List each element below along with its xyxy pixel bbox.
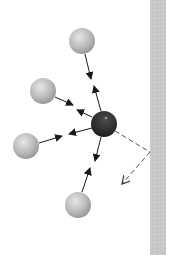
particle-upper-left: [30, 78, 56, 104]
arrow-bottom-pair: [82, 137, 101, 192]
particle-top: [69, 28, 95, 54]
wall-reflection-path: [115, 131, 150, 184]
particle-central-highlight: [105, 117, 108, 120]
arrow-upper-left-pair: [55, 97, 92, 117]
particle-bottom: [65, 192, 91, 218]
particle-central: [91, 111, 117, 137]
particle-left: [13, 133, 39, 159]
diagram-canvas: [0, 0, 176, 262]
arrow-top-pair: [85, 54, 101, 111]
wall: [150, 0, 166, 255]
arrow-left-pair: [39, 128, 92, 143]
